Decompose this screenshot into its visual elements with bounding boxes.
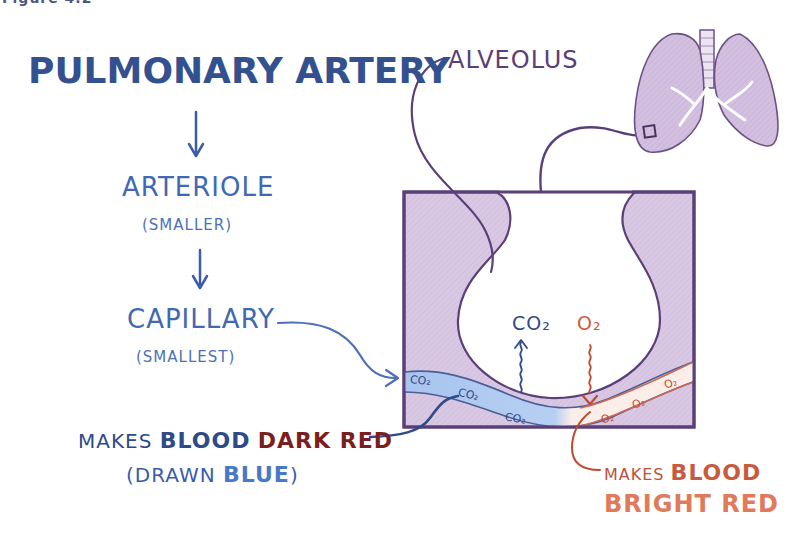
arteriole-label: ARTERIOLE	[122, 172, 274, 202]
alveolus-tissue-box	[404, 192, 694, 427]
makes-text: MAKES	[604, 465, 665, 484]
capillary-co2-label: CO₂	[409, 373, 431, 388]
makes-text: MAKES	[78, 429, 152, 453]
lungs-icon	[635, 30, 778, 152]
drawn-blue-annotation: (DRAWN BLUE)	[126, 462, 299, 487]
o2-label: O₂	[577, 312, 602, 334]
blood-text: BLOOD	[160, 428, 251, 453]
capillary-label: CAPILLARY	[127, 304, 275, 334]
capillary-pointer-arrow	[278, 322, 398, 386]
capillary-note: (SMALLEST)	[136, 348, 235, 366]
alveolus-label: ALVEOLUS	[448, 46, 579, 74]
flow-arrow-1	[189, 112, 203, 156]
arteriole-note: (SMALLER)	[142, 216, 232, 234]
co2-label: CO₂	[512, 312, 551, 334]
bright-red-text: BRIGHT RED	[604, 490, 779, 518]
lung-zoom-line	[540, 127, 640, 192]
drawn-text: (DRAWN	[126, 463, 216, 487]
figure-caption: Figure 4.2	[2, 0, 92, 6]
pulmonary-artery-label: PULMONARY ARTERY	[28, 50, 450, 91]
dark-red-annotation: MAKES BLOOD DARK RED	[78, 428, 393, 453]
dark-red-text: DARK RED	[258, 428, 393, 453]
paren-close-text: )	[290, 463, 299, 487]
flow-arrow-2	[193, 250, 207, 288]
blue-text: BLUE	[223, 462, 290, 487]
blood-text: BLOOD	[671, 460, 762, 485]
bright-red-annotation: MAKES BLOOD	[604, 460, 761, 485]
